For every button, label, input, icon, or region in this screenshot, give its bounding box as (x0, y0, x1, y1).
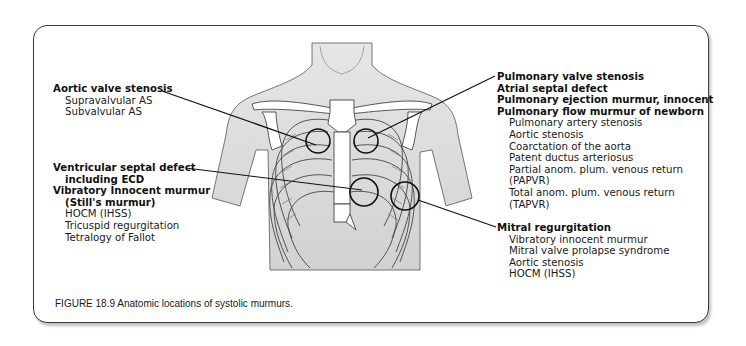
tricuspid-heading: Vibratory Innocent murmur (53, 185, 210, 197)
pulmonic-item: Aortic stenosis (497, 129, 713, 141)
tricuspid-heading: including ECD (53, 174, 210, 186)
pulmonic-item: Partial anom. plum. venous return (497, 164, 713, 176)
tricuspid-item: HOCM (IHSS) (53, 208, 210, 220)
tricuspid-heading: (Still's murmur) (53, 197, 210, 209)
tricuspid-heading: Ventricular septal defect (53, 162, 210, 174)
aortic-item: Subvalvular AS (53, 106, 173, 118)
pulmonic-heading: Pulmonary ejection murmur, innocent (497, 94, 713, 106)
pulmonic-heading: Atrial septal defect (497, 83, 713, 95)
tricuspid-callout: Ventricular septal defect including ECD … (53, 162, 210, 243)
aortic-item: Supravalvular AS (53, 95, 173, 107)
mitral-item: Mitral valve prolapse syndrome (497, 245, 669, 257)
tricuspid-item: Tetralogy of Fallot (53, 232, 210, 244)
pulmonic-item: Total anom. plum. venous return (497, 187, 713, 199)
aortic-heading: Aortic valve stenosis (53, 83, 173, 95)
aortic-callout: Aortic valve stenosis Supravalvular AS S… (53, 83, 173, 118)
mitral-item: Aortic stenosis (497, 257, 669, 269)
pulmonic-item: Pulmonary artery stenosis (497, 117, 713, 129)
tricuspid-item: Tricuspid regurgitation (53, 220, 210, 232)
pulmonic-item: (TAPVR) (497, 199, 713, 211)
pulmonic-callout: Pulmonary valve stenosis Atrial septal d… (497, 71, 713, 210)
pulmonic-heading: Pulmonary valve stenosis (497, 71, 713, 83)
figure-caption: FIGURE 18.9 Anatomic locations of systol… (55, 298, 293, 309)
mitral-callout: Mitral regurgitation Vibratory innocent … (497, 222, 669, 280)
mitral-item: HOCM (IHSS) (497, 268, 669, 280)
mitral-heading: Mitral regurgitation (497, 222, 669, 234)
pulmonic-heading: Pulmonary flow murmur of newborn (497, 106, 713, 118)
mitral-item: Vibratory innocent murmur (497, 234, 669, 246)
pulmonic-item: Patent ductus arteriosus (497, 152, 713, 164)
pulmonic-item: Coarctation of the aorta (497, 141, 713, 153)
mitral-leader-line (418, 200, 496, 227)
pulmonic-item: (PAPVR) (497, 175, 713, 187)
